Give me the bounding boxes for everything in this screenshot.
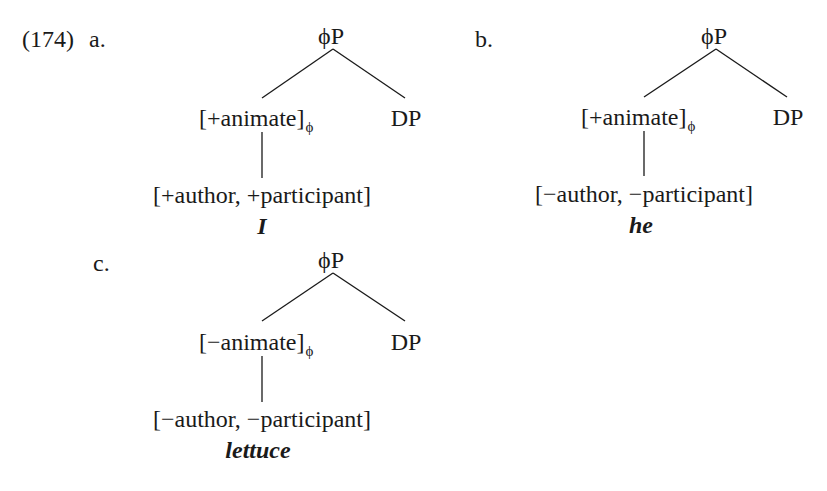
tree-b-left-branch: [644, 49, 716, 97]
tree-b-right-branch: [716, 49, 787, 97]
left-node: [+animate]ϕ: [581, 105, 695, 129]
tree-a-right-branch: [333, 49, 405, 98]
root-node: ϕP: [701, 24, 727, 48]
root-node: ϕP: [318, 24, 344, 48]
left-node-subscript: ϕ: [687, 118, 695, 134]
left-node-feature: [+animate]: [199, 105, 304, 131]
right-node: DP: [391, 106, 422, 130]
left-node-feature: [−animate]: [199, 329, 304, 355]
tree-c-right-branch: [333, 273, 405, 321]
left-node: [−animate]ϕ: [199, 330, 313, 354]
tree-a-left-branch: [262, 49, 333, 98]
lexical-item: he: [629, 213, 653, 237]
tree-label: c.: [93, 251, 110, 275]
right-node: DP: [773, 105, 804, 129]
tree-branches: [0, 0, 827, 491]
tree-label: b.: [475, 27, 493, 51]
tree-c-left-branch: [262, 273, 333, 321]
left-node-subscript: ϕ: [305, 119, 313, 135]
left-node-subscript: ϕ: [305, 343, 313, 359]
left-node-feature: [+animate]: [581, 104, 686, 130]
feature-bundle: [+author, +participant]: [153, 183, 371, 207]
lexical-item: I: [257, 214, 266, 238]
left-node: [+animate]ϕ: [199, 106, 313, 130]
lexical-item: lettuce: [225, 438, 290, 462]
tree-label: a.: [89, 27, 106, 51]
feature-bundle: [−author, −participant]: [535, 182, 753, 206]
feature-bundle: [−author, −participant]: [153, 407, 371, 431]
right-node: DP: [391, 330, 422, 354]
root-node: ϕP: [318, 248, 344, 272]
